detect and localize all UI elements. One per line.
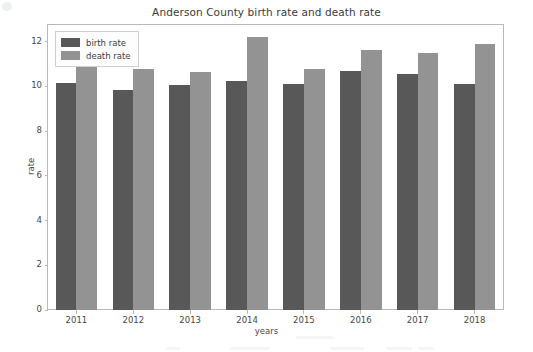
y-tick-mark bbox=[45, 41, 49, 42]
y-tick-mark bbox=[45, 131, 49, 132]
x-tick-mark bbox=[190, 310, 191, 314]
bar-2012-birth-rate bbox=[113, 90, 134, 310]
y-axis-label: rate bbox=[26, 158, 36, 175]
legend-swatch-death-rate-icon bbox=[61, 51, 80, 60]
x-tick-mark bbox=[360, 310, 361, 314]
y-tick-mark bbox=[45, 265, 49, 266]
x-tick-mark bbox=[247, 310, 248, 314]
legend-item-death-rate: death rate bbox=[61, 49, 131, 62]
y-tick-label: 4 bbox=[37, 215, 42, 225]
scan-artifact-bottom-4 bbox=[330, 347, 364, 350]
bar-2011-death-rate bbox=[76, 64, 97, 310]
bar-2016-birth-rate bbox=[340, 71, 361, 310]
bar-2017-death-rate bbox=[418, 53, 439, 310]
scan-artifact-bottom-2 bbox=[166, 347, 180, 350]
bar-2018-death-rate bbox=[475, 44, 496, 310]
x-tick-label: 2012 bbox=[113, 315, 153, 325]
scan-artifact-bottom-5 bbox=[386, 347, 412, 350]
chart-legend: birth rate death rate bbox=[55, 31, 139, 67]
x-tick-mark bbox=[76, 310, 77, 314]
bar-chart-figure: Anderson County birth rate and death rat… bbox=[0, 0, 533, 352]
bar-2014-death-rate bbox=[247, 37, 268, 310]
legend-label-death-rate: death rate bbox=[86, 51, 131, 61]
chart-title: Anderson County birth rate and death rat… bbox=[0, 6, 533, 18]
y-tick-label: 6 bbox=[37, 170, 42, 180]
bar-2013-birth-rate bbox=[169, 85, 190, 310]
y-tick-mark bbox=[45, 175, 49, 176]
y-tick-label: 10 bbox=[31, 80, 42, 90]
plot-area: rate 024681012 2011201220132014201520162… bbox=[48, 25, 503, 310]
x-tick-label: 2018 bbox=[455, 315, 495, 325]
bar-2013-death-rate bbox=[190, 72, 211, 311]
scan-artifact-bottom-1 bbox=[296, 336, 334, 339]
bar-2012-death-rate bbox=[133, 69, 154, 310]
bar-2015-birth-rate bbox=[283, 84, 304, 310]
x-tick-mark bbox=[474, 310, 475, 314]
x-tick-mark bbox=[133, 310, 134, 314]
scan-artifact-bottom-6 bbox=[418, 347, 434, 350]
y-tick-label: 0 bbox=[37, 304, 42, 314]
legend-swatch-birth-rate-icon bbox=[61, 38, 80, 47]
bar-2015-death-rate bbox=[304, 69, 325, 310]
bar-2011-birth-rate bbox=[56, 83, 77, 310]
legend-label-birth-rate: birth rate bbox=[86, 38, 126, 48]
x-tick-label: 2013 bbox=[170, 315, 210, 325]
bar-2014-birth-rate bbox=[226, 81, 247, 310]
y-tick-label: 12 bbox=[31, 36, 42, 46]
x-tick-mark bbox=[417, 310, 418, 314]
bar-2018-birth-rate bbox=[454, 84, 475, 310]
y-tick-mark bbox=[45, 310, 49, 311]
x-axis-label: years bbox=[0, 326, 533, 336]
y-tick-label: 2 bbox=[37, 259, 42, 269]
bar-2017-birth-rate bbox=[397, 74, 418, 310]
x-tick-label: 2016 bbox=[341, 315, 381, 325]
x-tick-label: 2011 bbox=[56, 315, 96, 325]
y-tick-mark bbox=[45, 220, 49, 221]
bar-2016-death-rate bbox=[361, 50, 382, 310]
x-tick-label: 2014 bbox=[227, 315, 267, 325]
x-tick-mark bbox=[303, 310, 304, 314]
x-tick-label: 2017 bbox=[398, 315, 438, 325]
y-tick-mark bbox=[45, 86, 49, 87]
legend-item-birth-rate: birth rate bbox=[61, 36, 131, 49]
y-tick-label: 8 bbox=[37, 125, 42, 135]
x-tick-label: 2015 bbox=[284, 315, 324, 325]
scan-artifact-bottom-3 bbox=[230, 347, 270, 350]
